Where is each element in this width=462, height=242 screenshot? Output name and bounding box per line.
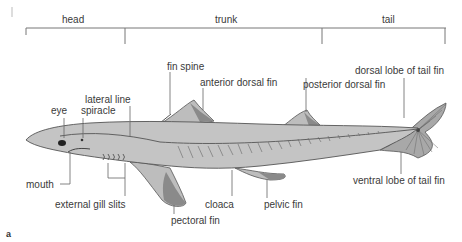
label-dorsal-lobe-of-tail-fin: dorsal lobe of tail fin — [355, 66, 444, 76]
label-cloaca: cloaca — [205, 200, 234, 210]
region-label-tail: tail — [382, 15, 395, 25]
label-mouth: mouth — [26, 180, 54, 190]
shark-body — [26, 121, 418, 168]
region-label-head: head — [62, 15, 84, 25]
label-external-gill-slits: external gill slits — [55, 200, 126, 210]
pelvic-fin — [235, 168, 285, 180]
anterior-dorsal-fin — [160, 100, 214, 124]
pectoral-fin — [130, 162, 186, 206]
figure-letter: a — [6, 229, 11, 239]
label-ventral-lobe-of-tail-fin: ventral lobe of tail fin — [353, 176, 445, 186]
label-posterior-dorsal-fin: posterior dorsal fin — [303, 80, 385, 90]
posterior-dorsal-fin — [283, 110, 320, 127]
label-lateral-line: lateral line — [85, 95, 131, 105]
label-spiracle: spiracle — [81, 106, 115, 116]
label-fin-spine: fin spine — [167, 62, 204, 72]
label-pectoral-fin: pectoral fin — [171, 216, 220, 226]
region-brackets — [26, 28, 446, 44]
label-anterior-dorsal-fin: anterior dorsal fin — [200, 78, 277, 88]
region-label-trunk: trunk — [215, 15, 237, 25]
label-pelvic-fin: pelvic fin — [264, 200, 303, 210]
label-eye: eye — [51, 106, 67, 116]
